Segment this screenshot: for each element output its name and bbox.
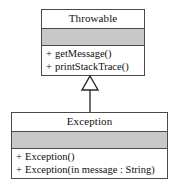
visibility-marker: + [16, 163, 25, 176]
visibility-marker: + [46, 60, 55, 73]
operation-signature: Exception() [25, 151, 75, 162]
attributes-compartment-throwable [42, 28, 144, 45]
class-name-exception: Exception [12, 113, 167, 131]
operation-signature: Exception(in message : String) [25, 164, 155, 175]
class-name-throwable: Throwable [42, 10, 144, 28]
operations-compartment-exception: +Exception() +Exception(in message : Str… [12, 148, 167, 178]
class-box-throwable[interactable]: Throwable +getMessage() +printStackTrace… [41, 9, 145, 76]
operation-row: +Exception() [12, 150, 167, 163]
hollow-triangle-icon [82, 76, 98, 90]
operation-row: +Exception(in message : String) [12, 163, 167, 176]
visibility-marker: + [46, 47, 55, 60]
operation-row: +printStackTrace() [42, 60, 144, 73]
operation-row: +getMessage() [42, 47, 144, 60]
class-box-exception[interactable]: Exception +Exception() +Exception(in mes… [11, 112, 168, 179]
visibility-marker: + [16, 150, 25, 163]
attributes-compartment-exception [12, 131, 167, 148]
operation-signature: getMessage() [55, 48, 112, 59]
uml-class-diagram: Throwable +getMessage() +printStackTrace… [0, 0, 176, 187]
operation-signature: printStackTrace() [55, 61, 129, 72]
generalization-arrow-exception-to-throwable[interactable] [76, 74, 104, 114]
operations-compartment-throwable: +getMessage() +printStackTrace() [42, 45, 144, 75]
